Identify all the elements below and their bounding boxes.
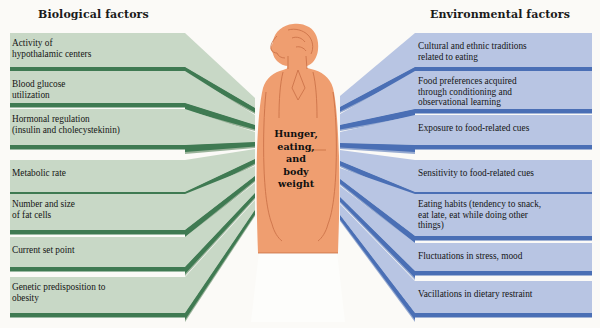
diagram-canvas: Biological factors Environmental factors [0, 0, 600, 328]
environmental-factor-label-7: Vacillations in dietary restraint [418, 289, 590, 300]
center-label: Hunger, eating, and body weight [258, 128, 334, 191]
biological-factor-label-3: Hormonal regulation (insulin and cholecy… [12, 114, 162, 135]
environmental-factor-label-1: Cultural and ethnic traditions related t… [418, 41, 590, 62]
biological-factor-label-6: Current set point [12, 245, 162, 256]
environmental-factor-label-3: Exposure to food-related cues [418, 123, 590, 134]
biological-factor-label-1: Activity of hypothalamic centers [12, 38, 162, 59]
environmental-factor-label-2: Food preferences acquired through condit… [418, 76, 590, 108]
biological-factor-label-5: Number and size of fat cells [12, 199, 162, 220]
biological-factor-label-4: Metabolic rate [12, 168, 162, 179]
biological-factor-label-2: Blood glucose utilization [12, 79, 162, 100]
biological-factor-label-7: Genetic predisposition to obesity [12, 282, 162, 303]
environmental-factor-label-5: Eating habits (tendency to snack, eat la… [418, 199, 590, 231]
environmental-factor-label-6: Fluctuations in stress, mood [418, 251, 590, 262]
environmental-factor-label-4: Sensitivity to food-related cues [418, 168, 590, 179]
